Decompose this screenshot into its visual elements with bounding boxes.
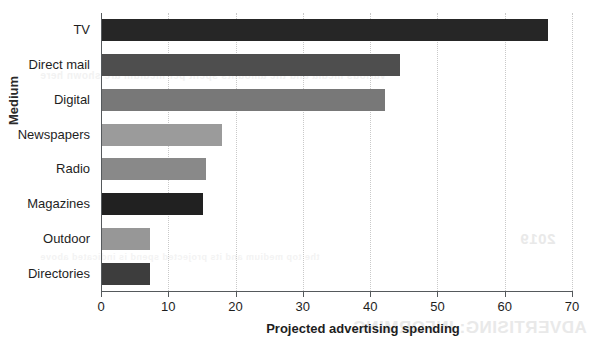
plot-area bbox=[101, 13, 572, 291]
bar-chart: ADVERTISING: INFORMING 2019 various medi… bbox=[0, 0, 608, 348]
bar bbox=[101, 158, 206, 180]
y-axis-tick-label: Newspapers bbox=[18, 127, 90, 143]
gridline bbox=[572, 13, 574, 291]
bar bbox=[101, 54, 400, 76]
x-axis-tick bbox=[303, 291, 304, 297]
x-axis-tick bbox=[370, 291, 371, 297]
x-axis-tick bbox=[505, 291, 506, 297]
bar bbox=[101, 263, 150, 285]
x-axis-tick bbox=[572, 291, 573, 297]
x-axis-title-text: Projected advertising spending bbox=[266, 321, 460, 336]
x-axis-line bbox=[101, 291, 573, 292]
y-axis-tick-label: Digital bbox=[54, 92, 90, 108]
y-axis-line bbox=[101, 13, 102, 292]
y-axis-tick-label: TV bbox=[73, 22, 90, 38]
x-axis-tick-label: 20 bbox=[216, 299, 256, 314]
x-axis-tick-label: 10 bbox=[148, 299, 188, 314]
y-axis-tick-label: Magazines bbox=[27, 196, 90, 212]
x-axis-tick-label: 0 bbox=[81, 299, 121, 314]
x-axis-tick-label: 30 bbox=[283, 299, 323, 314]
x-axis-tick-label: 50 bbox=[417, 299, 457, 314]
gridline bbox=[505, 13, 507, 291]
bar bbox=[101, 89, 385, 111]
bar bbox=[101, 228, 150, 250]
y-axis-tick-labels: TVDirect mailDigitalNewspapersRadioMagaz… bbox=[0, 13, 96, 291]
x-axis-tick-label: 40 bbox=[350, 299, 390, 314]
gridline bbox=[437, 13, 439, 291]
x-axis-tick bbox=[168, 291, 169, 297]
bar bbox=[101, 193, 203, 215]
y-axis-tick-label: Directories bbox=[28, 266, 90, 282]
x-axis-tick bbox=[236, 291, 237, 297]
x-axis-tick bbox=[101, 291, 102, 297]
y-axis-tick-label: Outdoor bbox=[43, 231, 90, 247]
x-axis-title: Projected advertising spending bbox=[0, 321, 608, 336]
x-axis-tick bbox=[437, 291, 438, 297]
x-axis-tick-label: 60 bbox=[485, 299, 525, 314]
y-axis-tick-label: Radio bbox=[56, 161, 90, 177]
y-axis-tick-label: Direct mail bbox=[29, 57, 90, 73]
bar bbox=[101, 19, 548, 41]
bar bbox=[101, 124, 222, 146]
x-axis-tick-label: 70 bbox=[552, 299, 592, 314]
